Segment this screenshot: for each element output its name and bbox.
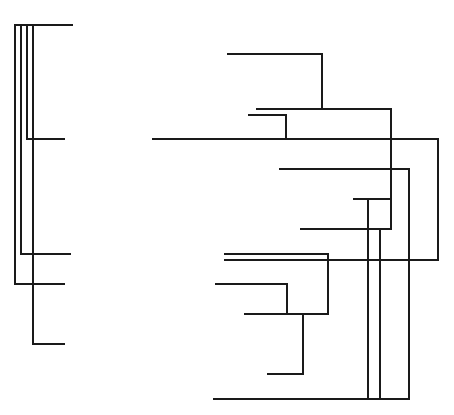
dendrogram-canvas <box>0 0 454 415</box>
left-dendrogram <box>15 25 72 344</box>
right-dendrogram <box>153 54 438 399</box>
